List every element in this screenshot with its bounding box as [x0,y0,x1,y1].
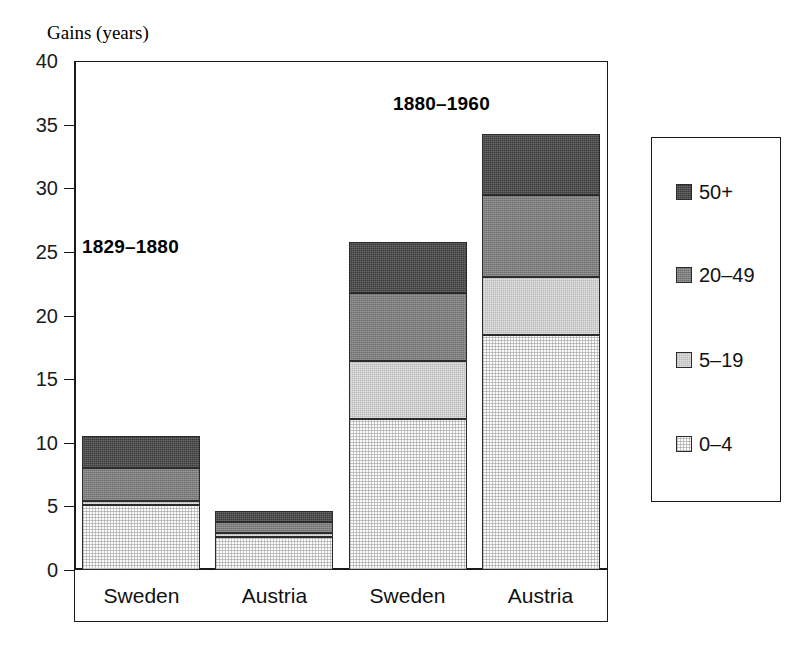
legend-swatch-icon [676,436,692,452]
bar-segment-0-4[interactable] [82,505,200,570]
legend-label: 5–19 [699,350,744,370]
legend-item-20-49[interactable]: 20–49 [676,265,755,285]
x-axis-label-austria: Austria [208,570,341,621]
y-axis-title: Gains (years) [47,22,149,44]
bar-segment-20-49[interactable] [349,293,467,362]
period-annotation-2: 1880–1960 [393,93,490,115]
bar-segment-20-49[interactable] [482,195,600,278]
y-axis-tick-label: 25 [4,242,58,262]
y-axis-tick-label: 35 [4,115,58,135]
bar-sweden-1829-1880[interactable] [82,436,200,570]
y-axis-tick-label: 15 [4,369,58,389]
x-axis-label-sweden: Sweden [341,570,474,621]
legend-item-50+[interactable]: 50+ [676,182,733,202]
bar-segment-50+[interactable] [349,242,467,293]
y-axis-tick-label: 10 [4,433,58,453]
y-axis-tick-label: 20 [4,306,58,326]
bar-segment-50+[interactable] [82,436,200,468]
bar-segment-0-4[interactable] [482,335,600,570]
bar-austria-1829-1880[interactable] [215,511,333,570]
bar-austria-1880-1960[interactable] [482,134,600,570]
y-axis-tick-label: 5 [4,496,58,516]
bar-segment-5-19[interactable] [82,501,200,505]
legend: 50+20–495–190–4 [651,137,781,502]
bar-segment-50+[interactable] [215,511,333,521]
legend-item-5-19[interactable]: 5–19 [676,350,744,370]
y-axis-tick-label: 0 [4,560,58,580]
legend-item-0-4[interactable]: 0–4 [676,434,732,454]
legend-swatch-icon [676,267,692,283]
bar-series-container [74,61,608,570]
bar-segment-5-19[interactable] [482,277,600,334]
bar-segment-5-19[interactable] [215,533,333,537]
y-axis-tick-label: 40 [4,51,58,71]
y-axis-tick-label: 30 [4,178,58,198]
period-annotation-1: 1829–1880 [82,236,179,258]
bar-segment-5-19[interactable] [349,361,467,418]
legend-label: 20–49 [699,265,755,285]
bar-sweden-1880-1960[interactable] [349,242,467,570]
legend-swatch-icon [676,352,692,368]
x-axis-label-austria: Austria [474,570,607,621]
bar-segment-0-4[interactable] [215,537,333,570]
x-axis-label-sweden: Sweden [75,570,208,621]
bar-segment-0-4[interactable] [349,419,467,570]
bar-segment-20-49[interactable] [82,468,200,501]
bar-segment-20-49[interactable] [215,522,333,533]
legend-label: 50+ [699,182,733,202]
bar-segment-50+[interactable] [482,134,600,195]
legend-swatch-icon [676,184,692,200]
x-axis-label-box: SwedenAustriaSwedenAustria [74,570,608,622]
legend-label: 0–4 [699,434,732,454]
